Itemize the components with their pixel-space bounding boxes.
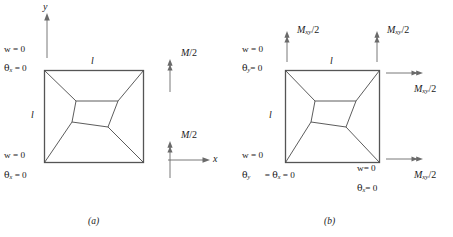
panel-a-y-axis-arrow (44, 13, 50, 58)
panel-b-yield-lines (286, 71, 380, 163)
panel-a-load-arrow-top (167, 59, 172, 92)
panel-a-bc-topleft-theta: θx = 0 (4, 63, 27, 74)
panel-a-x-axis-label: x (213, 154, 217, 164)
panel-b-load-label-right-bottom: Mxy/2 (414, 170, 436, 181)
panel-a-load-arrow-bottom (167, 141, 172, 178)
panel-a-bc-topleft-w: w = 0 (4, 45, 25, 54)
panel-a-x-axis-arrow (168, 157, 210, 163)
panel-b-load-label-top-right: Mxy/2 (387, 25, 409, 36)
panel-a-bc-bottomleft-theta: θx = 0 (4, 170, 27, 181)
panel-b-load-arrow-top-right (374, 31, 379, 62)
equals-zero: = 0 (12, 170, 26, 180)
panel-b-bc-bottomleft-w: w = 0 (242, 151, 263, 160)
equals-zero: = 0 (281, 170, 295, 180)
moment-divisor: /2 (189, 47, 197, 58)
panel-b-bc-topleft-theta: θy= 0 (242, 63, 262, 74)
equals-zero: = 0 (250, 63, 262, 73)
equals-zero: = 0 (12, 63, 26, 73)
theta-subscript: y (248, 173, 251, 180)
panel-a-bc-bottomleft-w: w = 0 (4, 151, 25, 160)
figure-two-panel-yield-line: y x l l w = 0 θx = 0 w = 0 θx = 0 M/2 M/… (0, 0, 453, 237)
diagram-linework (0, 0, 453, 237)
panel-a-load-label-top: M/2 (181, 48, 197, 58)
moment-divisor: /2 (189, 129, 197, 140)
panel-a-load-label-bottom: M/2 (181, 130, 197, 140)
panel-b-load-label-top-left: Mxy/2 (297, 25, 319, 36)
panel-b-caption: (b) (324, 217, 335, 227)
panel-a-y-axis-label: y (43, 2, 47, 12)
panel-a-yield-lines (45, 71, 144, 163)
panel-b-bc-topleft-w: w = 0 (242, 45, 263, 54)
panel-a-dim-left: l (31, 110, 34, 120)
panel-b-load-label-right-top: Mxy/2 (414, 84, 436, 95)
equals-middle: = (262, 170, 272, 180)
moment-divisor: /2 (311, 24, 319, 35)
equals-zero: = 0 (365, 183, 377, 193)
panel-b-load-arrow-top-left (284, 31, 289, 62)
panel-b-plate-outline (286, 71, 380, 163)
panel-b-bc-bottomleft-theta: θy= 0 = θx = 0 (242, 170, 295, 181)
panel-b-bc-bottomright-w: w= 0 (357, 164, 376, 173)
panel-b-bc-bottomright-theta: θx= 0 (357, 183, 377, 194)
moment-divisor: /2 (428, 83, 436, 94)
panel-b-dim-top: l (330, 56, 333, 66)
panel-b-load-arrow-right-top (386, 70, 423, 75)
panel-a-caption: (a) (88, 217, 99, 227)
moment-divisor: /2 (428, 169, 436, 180)
panel-b-dim-left: l (269, 110, 272, 120)
panel-a-dim-top: l (91, 56, 94, 66)
moment-divisor: /2 (401, 24, 409, 35)
panel-b-load-arrow-right-bottom (386, 156, 423, 161)
